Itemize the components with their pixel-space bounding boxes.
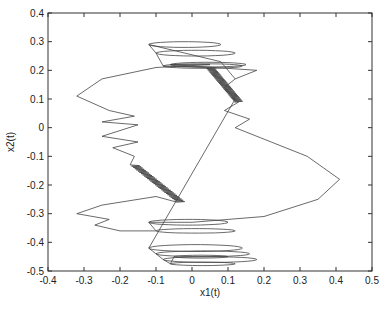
x-tick-label: 0.4 [329,275,343,286]
x-tick-label: -0.4 [39,275,57,286]
plot-axes: -0.4-0.3-0.2-0.100.10.20.30.40.50.40.30.… [27,8,380,287]
x-tick-label: -0.2 [111,275,129,286]
x-tick-label: -0.1 [147,275,165,286]
x-tick-label: 0.5 [365,275,379,286]
y-tick-label: 0.2 [30,65,44,76]
x-axis-label: x1(t) [200,287,220,298]
y-tick-label: -0.2 [27,180,45,191]
y-tick-label: 0.4 [30,8,44,19]
x-tick-label: 0 [189,275,195,286]
x-tick-label: 0.1 [221,275,235,286]
trajectory-line [77,42,340,266]
chart-figure: -0.4-0.3-0.2-0.100.10.20.30.40.50.40.30.… [0,0,390,309]
y-tick-label: -0.1 [27,151,45,162]
x-tick-label: 0.2 [257,275,271,286]
x-tick-label: 0.3 [293,275,307,286]
y-tick-label: -0.3 [27,208,45,219]
y-tick-label: -0.4 [27,237,45,248]
y-tick-label: 0 [38,122,44,133]
y-tick-label: -0.5 [27,266,45,277]
y-axis-label: x2(t) [5,132,16,152]
y-tick-label: 0.1 [30,94,44,105]
y-tick-label: 0.3 [30,36,44,47]
x-tick-label: -0.3 [75,275,93,286]
phase-plot: -0.4-0.3-0.2-0.100.10.20.30.40.50.40.30.… [0,0,390,309]
